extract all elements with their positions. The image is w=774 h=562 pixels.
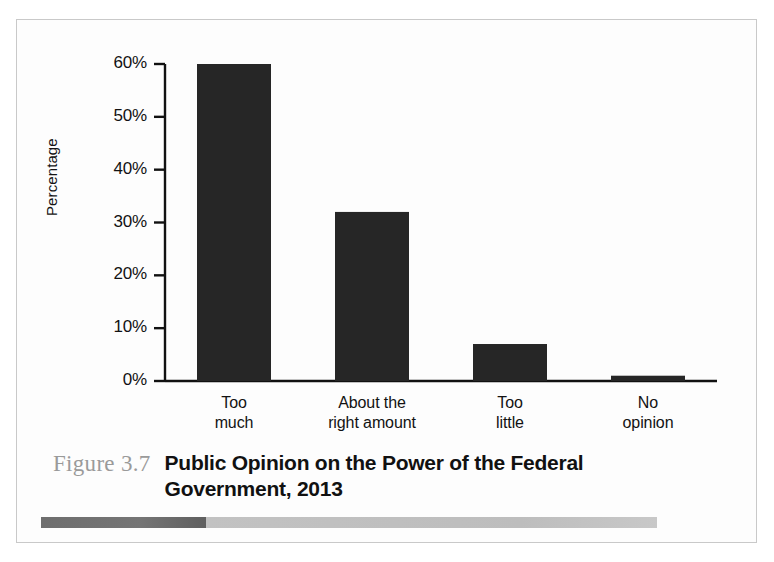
figure-frame: Percentage 0%10%20%30%40%50%60% ToomuchA… <box>16 19 757 543</box>
bar <box>335 212 409 381</box>
y-axis-tick-label: 60% <box>89 53 147 73</box>
figure-caption: Figure 3.7 Public Opinion on the Power o… <box>53 450 723 502</box>
y-axis-tick-label: 0% <box>89 370 147 390</box>
figure-title: Public Opinion on the Power of the Feder… <box>165 450 595 502</box>
bar <box>611 376 685 381</box>
bar <box>197 64 271 381</box>
x-axis-tick-label: Noopinion <box>559 393 737 433</box>
bar-series <box>197 64 685 381</box>
y-axis-ticks <box>154 64 165 381</box>
bar <box>473 344 547 381</box>
figure-number: Figure 3.7 <box>53 450 165 477</box>
caption-rule-dark-segment <box>41 517 206 528</box>
y-axis-tick-label: 40% <box>89 159 147 179</box>
caption-rule-light-segment <box>206 517 657 528</box>
y-axis-tick-label: 50% <box>89 106 147 126</box>
x-axis-tick-label-line: opinion <box>559 413 737 433</box>
y-axis-tick-label: 30% <box>89 212 147 232</box>
caption-rule <box>41 517 657 528</box>
y-axis-tick-label: 20% <box>89 264 147 284</box>
chart-area: Percentage 0%10%20%30%40%50%60% ToomuchA… <box>17 20 758 440</box>
x-axis-tick-label-line: No <box>559 393 737 413</box>
y-axis-title: Percentage <box>43 86 60 216</box>
y-axis-tick-label: 10% <box>89 317 147 337</box>
